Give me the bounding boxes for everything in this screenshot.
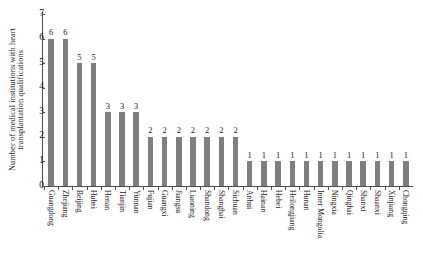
bar-rect[interactable] <box>48 39 54 186</box>
bar-rect[interactable] <box>332 161 338 186</box>
bar-rect[interactable] <box>105 112 111 186</box>
bar-value-label: 2 <box>233 126 237 135</box>
x-axis-label-text: Chongqing <box>401 190 410 224</box>
bar-item[interactable]: 6 <box>44 14 58 186</box>
x-axis-tick-mark <box>143 186 144 190</box>
bar-rect[interactable] <box>219 137 225 186</box>
y-axis-title: Number of medical institutions with hear… <box>0 0 34 200</box>
x-axis-label: Ningxia <box>328 190 342 274</box>
bar-item[interactable]: 3 <box>101 14 115 186</box>
x-axis-label: Hunan <box>299 190 313 274</box>
bar-item[interactable]: 2 <box>143 14 157 186</box>
x-axis-tick-mark <box>214 186 215 190</box>
x-axis-label-text: Sichuan <box>231 190 240 215</box>
bar-rect[interactable] <box>360 161 366 186</box>
bar-rect[interactable] <box>176 137 182 186</box>
bar-item[interactable]: 1 <box>299 14 313 186</box>
x-axis-label-text: Yunnan <box>132 190 141 214</box>
x-axis-label: Hebei <box>271 190 285 274</box>
bar-rect[interactable] <box>261 161 267 186</box>
x-axis-tick-mark <box>101 186 102 190</box>
bar-series: 66553332222222111111111111 <box>44 14 413 186</box>
x-axis-label: Shandong <box>200 190 214 274</box>
bar-item[interactable]: 1 <box>342 14 356 186</box>
bar-value-label: 1 <box>276 151 280 160</box>
bar-item[interactable]: 5 <box>87 14 101 186</box>
x-axis-label-text: Hunan <box>302 190 311 211</box>
x-axis-tick-mark <box>115 186 116 190</box>
bar-item[interactable]: 2 <box>200 14 214 186</box>
bar-item[interactable]: 2 <box>186 14 200 186</box>
bar-item[interactable]: 5 <box>72 14 86 186</box>
x-axis-tick-mark <box>328 186 329 190</box>
x-axis-label-text: Qinghai <box>345 190 354 215</box>
bar-rect[interactable] <box>233 137 239 186</box>
bar-item[interactable]: 1 <box>370 14 384 186</box>
x-axis-tick-mark <box>257 186 258 190</box>
bar-value-label: 5 <box>92 53 96 62</box>
x-axis-label-text: Fujian <box>146 190 155 210</box>
bar-value-label: 1 <box>248 151 252 160</box>
x-axis-label-text: Shanghai <box>217 190 226 219</box>
bar-rect[interactable] <box>204 137 210 186</box>
x-axis-tick-mark <box>399 186 400 190</box>
bar-rect[interactable] <box>148 137 154 186</box>
bar-rect[interactable] <box>119 112 125 186</box>
bar-rect[interactable] <box>91 63 97 186</box>
bar-item[interactable]: 6 <box>58 14 72 186</box>
bar-rect[interactable] <box>190 137 196 186</box>
bar-value-label: 1 <box>375 151 379 160</box>
x-axis-label-text: Henan <box>103 190 112 210</box>
bar-value-label: 5 <box>77 53 81 62</box>
bar-item[interactable]: 1 <box>243 14 257 186</box>
bar-item[interactable]: 2 <box>228 14 242 186</box>
bar-item[interactable]: 1 <box>257 14 271 186</box>
x-axis-tick-mark <box>87 186 88 190</box>
y-axis-tick-label: 2 <box>32 130 44 141</box>
bar-rect[interactable] <box>63 39 69 186</box>
bar-rect[interactable] <box>133 112 139 186</box>
bar-rect[interactable] <box>290 161 296 186</box>
bar-rect[interactable] <box>318 161 324 186</box>
bar-item[interactable]: 1 <box>385 14 399 186</box>
bar-item[interactable]: 1 <box>356 14 370 186</box>
bar-item[interactable]: 3 <box>129 14 143 186</box>
x-axis-tick-mark <box>299 186 300 190</box>
bar-value-label: 6 <box>63 28 67 37</box>
bar-item[interactable]: 2 <box>158 14 172 186</box>
bar-rect[interactable] <box>389 161 395 186</box>
bar-value-label: 1 <box>290 151 294 160</box>
x-axis-tick-mark <box>129 186 130 190</box>
bar-item[interactable]: 2 <box>214 14 228 186</box>
bar-item[interactable]: 1 <box>328 14 342 186</box>
x-axis-label: Henan <box>101 190 115 274</box>
bar-item[interactable]: 1 <box>399 14 413 186</box>
x-axis-label: Liaoning <box>186 190 200 274</box>
bar-rect[interactable] <box>247 161 253 186</box>
x-axis-label: Tianjin <box>115 190 129 274</box>
bar-rect[interactable] <box>275 161 281 186</box>
bar-rect[interactable] <box>304 161 310 186</box>
bar-value-label: 1 <box>333 151 337 160</box>
x-axis-label: Heilongjiang <box>285 190 299 274</box>
bar-item[interactable]: 1 <box>314 14 328 186</box>
bar-value-label: 3 <box>134 102 138 111</box>
bar-item[interactable]: 1 <box>285 14 299 186</box>
bar-value-label: 6 <box>49 28 53 37</box>
bar-rect[interactable] <box>403 161 409 186</box>
bar-item[interactable]: 1 <box>271 14 285 186</box>
x-axis-label: Jiangsu <box>172 190 186 274</box>
x-axis-label: Guangdong <box>44 190 58 274</box>
bar-rect[interactable] <box>346 161 352 186</box>
x-axis-label: Beijing <box>72 190 86 274</box>
bar-rect[interactable] <box>77 63 83 186</box>
bar-value-label: 2 <box>205 126 209 135</box>
bar-item[interactable]: 2 <box>172 14 186 186</box>
bar-rect[interactable] <box>375 161 381 186</box>
x-axis-label: Guangxi <box>158 190 172 274</box>
x-axis-label-text: Guangxi <box>160 190 169 217</box>
bar-rect[interactable] <box>162 137 168 186</box>
x-axis-tick-mark <box>314 186 315 190</box>
bar-item[interactable]: 3 <box>115 14 129 186</box>
x-axis-label: Fujian <box>143 190 157 274</box>
